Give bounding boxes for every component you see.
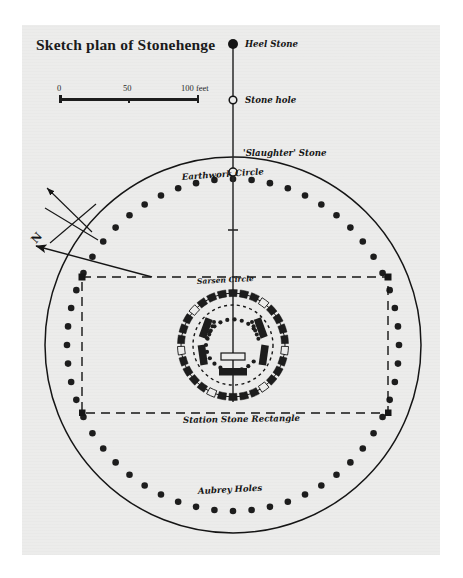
sarsen-stone <box>249 388 259 398</box>
trilithon-e <box>259 345 269 366</box>
aubrey-hole <box>68 379 75 386</box>
aubrey-hole <box>396 342 403 349</box>
aubrey-hole <box>302 192 309 199</box>
sarsen-stone <box>273 366 283 376</box>
aubrey-hole <box>175 185 182 192</box>
aubrey-hole <box>100 238 107 245</box>
sarsen-stone <box>178 346 186 355</box>
aubrey-hole <box>175 498 182 505</box>
stone-hole-label: Stone hole <box>245 95 297 105</box>
bluestone <box>212 320 216 324</box>
altar-stone <box>221 353 245 360</box>
sarsen-stone <box>281 335 289 344</box>
aubrey-hole <box>68 305 75 312</box>
station-stone-rectangle <box>82 277 388 413</box>
north-arrow-label: N <box>29 230 45 246</box>
aubrey-hole <box>158 192 165 199</box>
sarsen-stone <box>281 346 289 355</box>
stone-hole-marker <box>229 96 237 104</box>
bluestone <box>212 362 216 366</box>
aubrey-hole <box>267 180 274 187</box>
bluestone <box>225 318 229 322</box>
aubrey-hole <box>379 414 386 421</box>
sarsen-stone <box>183 366 193 376</box>
aubrey-hole <box>370 430 377 437</box>
heel-stone-marker <box>228 39 238 49</box>
aubrey-hole <box>285 498 292 505</box>
bluestone <box>232 317 236 321</box>
aubrey-holes-label: Aubrey Holes <box>197 483 263 496</box>
plan-drawing: N Heel Stone Stone hole 'Slaughter' Ston… <box>0 0 463 578</box>
aubrey-hole <box>126 212 133 219</box>
sarsen-stone <box>239 392 248 401</box>
bluestone-horseshoe <box>204 317 261 372</box>
aubrey-hole <box>392 305 399 312</box>
aubrey-hole <box>347 459 354 466</box>
stonehenge-plan-figure: Sketch plan of Stonehenge 0 50 100 feet … <box>0 0 463 578</box>
trilithon-s <box>219 368 247 376</box>
sarsen-stone <box>249 293 259 303</box>
aubrey-hole <box>89 430 96 437</box>
trilithon-w <box>198 345 208 366</box>
aubrey-hole <box>359 238 366 245</box>
bluestone <box>246 364 250 368</box>
aubrey-hole <box>141 482 148 489</box>
sarsen-stone <box>229 393 238 400</box>
sarsen-stone <box>278 356 287 366</box>
bluestone <box>246 322 250 326</box>
aubrey-hole <box>248 507 255 514</box>
sarsen-stone <box>273 314 283 324</box>
station-stone-sw <box>79 410 86 417</box>
aubrey-hole <box>248 177 255 184</box>
aubrey-hole <box>347 224 354 231</box>
aubrey-hole <box>392 379 399 386</box>
aubrey-hole <box>112 224 119 231</box>
aubrey-hole <box>64 342 71 349</box>
sarsen-stone <box>178 335 186 344</box>
aubrey-hole <box>100 445 107 452</box>
aubrey-hole <box>193 504 200 511</box>
aubrey-hole <box>333 471 340 478</box>
aubrey-hole <box>73 287 80 294</box>
aubrey-hole <box>395 360 402 367</box>
bluestone <box>218 320 222 324</box>
aubrey-hole <box>370 253 377 260</box>
aubrey-hole <box>158 491 165 498</box>
aubrey-hole <box>395 323 402 330</box>
aubrey-hole <box>318 201 325 208</box>
sarsen-stone <box>239 290 248 299</box>
bluestone <box>252 324 256 328</box>
sarsen-stone <box>217 392 226 401</box>
station-stone-se <box>385 410 392 417</box>
bluestone <box>240 319 244 323</box>
sarsen-circle-label: Sarsen Circle <box>197 274 255 286</box>
station-stone-rectangle-label: Station Stone Rectangle <box>183 413 301 425</box>
aubrey-hole <box>359 445 366 452</box>
bluestone <box>250 320 254 324</box>
sarsen-stone <box>179 356 188 366</box>
sarsen-stone <box>207 388 217 398</box>
aubrey-hole <box>126 471 133 478</box>
aubrey-hole <box>89 253 96 260</box>
station-stone-nw <box>79 274 86 281</box>
heel-stone-label: Heel Stone <box>244 39 298 49</box>
sarsen-stone <box>183 314 193 324</box>
station-stone-ne <box>385 274 392 281</box>
bluestone <box>256 337 260 341</box>
bluestone <box>253 328 257 332</box>
sarsen-stone <box>217 290 226 299</box>
bluestone <box>209 328 213 332</box>
aubrey-hole <box>285 185 292 192</box>
north-arrow: N <box>29 188 152 277</box>
sarsen-stone <box>278 324 287 334</box>
aubrey-hole <box>65 360 72 367</box>
sarsen-stone <box>229 290 238 297</box>
aubrey-hole <box>211 507 218 514</box>
aubrey-hole <box>333 212 340 219</box>
aubrey-hole <box>267 504 274 511</box>
aubrey-hole <box>230 508 237 515</box>
aubrey-hole <box>318 482 325 489</box>
bluestone <box>208 356 212 360</box>
sarsen-stone <box>179 324 188 334</box>
aubrey-hole <box>141 201 148 208</box>
